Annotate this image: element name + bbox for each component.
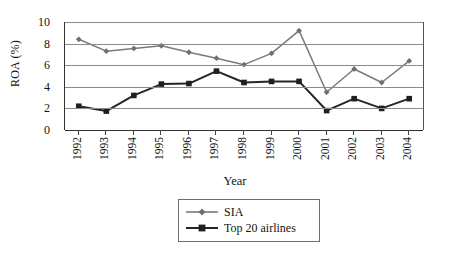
y-tick-label: 2	[44, 102, 50, 114]
x-tick-label: 1998	[237, 137, 249, 160]
data-point-marker-diamond	[131, 46, 137, 52]
x-tick-label: 1994	[127, 137, 139, 160]
data-series-layer	[65, 22, 423, 130]
data-point-marker-square	[269, 79, 275, 85]
x-tick-mark	[188, 130, 189, 135]
data-point-marker-diamond	[186, 49, 192, 55]
x-tick-mark	[243, 130, 244, 135]
gridline	[65, 22, 423, 23]
x-tick-label: 1993	[99, 137, 111, 160]
plot-area	[64, 22, 424, 130]
x-axis-title: Year	[0, 174, 470, 189]
x-tick-label: 2003	[375, 137, 387, 160]
x-tick-mark	[215, 130, 216, 135]
data-point-marker-diamond	[214, 55, 220, 61]
x-tick-mark	[353, 130, 354, 135]
y-tick-label: 8	[44, 38, 50, 50]
y-tick-label: 0	[44, 124, 50, 136]
gridline	[65, 44, 423, 45]
x-tick-mark	[133, 130, 134, 135]
data-point-marker-square	[241, 80, 247, 86]
x-tick-mark	[105, 130, 106, 135]
data-point-marker-square	[351, 96, 357, 102]
x-tick-mark	[408, 130, 409, 135]
y-tick-label: 6	[44, 59, 50, 71]
legend-label-sia: SIA	[224, 205, 243, 220]
x-tick-mark	[271, 130, 272, 135]
legend-item-top20: Top 20 airlines	[185, 220, 313, 236]
gridline	[65, 87, 423, 88]
gridline	[65, 65, 423, 66]
legend-marker-diamond-icon	[185, 206, 219, 218]
y-axis-title: ROA (%)	[8, 40, 24, 87]
gridline	[65, 108, 423, 109]
chart-figure: ROA (%) 1086420 199219931994199519961997…	[0, 0, 470, 254]
y-tick-label: 10	[38, 16, 50, 28]
x-axis-tick-labels: 1992199319941995199619971998199920002001…	[64, 137, 422, 171]
x-axis-tick-marks	[64, 130, 422, 136]
chart-legend: SIA Top 20 airlines	[178, 199, 320, 242]
data-point-marker-square	[214, 68, 220, 74]
x-tick-label: 1996	[182, 137, 194, 160]
x-tick-mark	[381, 130, 382, 135]
series-line-top20	[79, 71, 409, 111]
data-point-marker-square	[131, 93, 137, 99]
x-tick-label: 1999	[265, 137, 277, 160]
x-tick-label: 2004	[402, 137, 414, 160]
y-tick-label: 4	[44, 81, 50, 93]
data-point-marker-diamond	[76, 36, 82, 42]
data-point-marker-square	[406, 96, 412, 102]
data-point-marker-diamond	[103, 48, 109, 54]
y-axis-tick-labels: 1086420	[26, 22, 50, 130]
x-tick-label: 2001	[320, 137, 332, 160]
x-tick-label: 2000	[292, 137, 304, 160]
legend-marker-square-icon	[185, 222, 219, 234]
x-tick-mark	[326, 130, 327, 135]
x-tick-label: 1997	[209, 137, 221, 160]
x-tick-mark	[78, 130, 79, 135]
x-tick-mark	[160, 130, 161, 135]
x-tick-label: 1992	[72, 137, 84, 160]
data-point-marker-square	[296, 79, 302, 85]
legend-label-top20: Top 20 airlines	[224, 221, 296, 236]
x-tick-mark	[298, 130, 299, 135]
x-tick-label: 1995	[154, 137, 166, 160]
legend-item-sia: SIA	[185, 204, 313, 220]
x-tick-label: 2002	[347, 137, 359, 160]
data-point-marker-square	[186, 81, 192, 87]
